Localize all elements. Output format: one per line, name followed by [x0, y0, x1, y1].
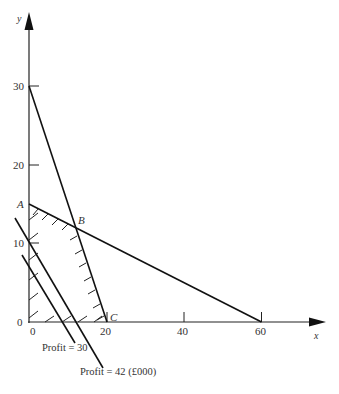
x-tick-label-20: 20: [100, 325, 112, 337]
y-axis-arrow-icon: [25, 12, 34, 30]
y-tick-label-10: 10: [13, 237, 25, 249]
y-tick-label-0: 0: [17, 316, 23, 328]
x-tick-label-60: 60: [255, 325, 267, 337]
profit-30-annotation: Profit = 30: [42, 342, 88, 353]
y-axis-label: y: [16, 13, 22, 24]
linear-programming-chart: 30 20 10 0 0 20 40 60 y x: [0, 0, 339, 394]
x-axis-label: x: [313, 330, 319, 341]
point-label-c: C: [110, 311, 118, 323]
y-tick-label-30: 30: [13, 80, 25, 92]
x-ticks: [107, 312, 262, 322]
x-tick-label-0: 0: [30, 325, 36, 337]
x-axis-arrow-icon: [309, 318, 326, 327]
y-tick-label-20: 20: [13, 159, 25, 171]
constraint-lines: [29, 86, 262, 322]
point-label-a: A: [16, 198, 24, 210]
x-tick-label-40: 40: [177, 325, 189, 337]
profit-42-annotation: Profit = 42 (£000): [80, 366, 157, 378]
constraint-line-2: [29, 204, 262, 322]
axes: [28, 22, 316, 323]
point-label-b: B: [78, 214, 85, 226]
